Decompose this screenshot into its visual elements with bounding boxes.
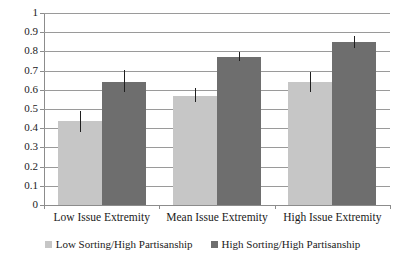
x-axis-category-label: Mean Issue Extremity [159,210,274,224]
plot-area [44,13,390,205]
error-bar [80,111,81,132]
y-axis-tick-mark [40,205,44,206]
error-bar [354,36,355,48]
y-axis-tick-label: 0.7 [4,65,38,76]
bar [102,82,146,205]
y-axis-tick-mark [40,90,44,91]
y-axis-tick-label: 0.4 [4,122,38,133]
x-axis-tick-mark [275,205,276,209]
y-axis-tick-labels: 10.90.80.70.60.50.40.30.20.10 [0,0,38,264]
bar [288,82,332,205]
legend-label: High Sorting/High Partisanship [222,238,361,250]
y-axis-tick-mark [40,186,44,187]
y-axis-tick-label: 0.8 [4,45,38,56]
legend-swatch-icon [211,241,218,248]
y-axis-tick-label: 0.3 [4,141,38,152]
legend-item: High Sorting/High Partisanship [211,238,361,250]
x-axis-tick-mark [44,205,45,209]
bar [217,57,261,205]
y-axis-tick-mark [40,13,44,14]
chart-legend: Low Sorting/High PartisanshipHigh Sortin… [0,238,405,250]
bar [332,42,376,205]
gridline [44,205,390,206]
x-axis-category-label: Low Issue Extremity [44,210,159,224]
bar-chart: 10.90.80.70.60.50.40.30.20.10 Low Issue … [0,0,405,264]
x-axis-category-label: High Issue Extremity [275,210,390,224]
y-axis-tick-mark [40,32,44,33]
y-axis-tick-mark [40,51,44,52]
error-bar [310,72,311,92]
legend-item: Low Sorting/High Partisanship [45,238,193,250]
gridline [44,13,390,14]
y-axis-tick-label: 0 [4,199,38,210]
y-axis-tick-mark [40,71,44,72]
y-axis-tick-mark [40,109,44,110]
y-axis-tick-label: 0.2 [4,161,38,172]
error-bar [124,70,125,92]
y-axis-tick-label: 0.9 [4,26,38,37]
gridline [44,32,390,33]
y-axis-tick-label: 0.1 [4,180,38,191]
legend-swatch-icon [45,241,52,248]
y-axis-tick-label: 0.5 [4,103,38,114]
bar [58,121,102,205]
y-axis-tick-mark [40,147,44,148]
bar [173,96,217,205]
y-axis-tick-mark [40,167,44,168]
y-axis-tick-label: 0.6 [4,84,38,95]
y-axis-tick-mark [40,128,44,129]
x-axis-tick-mark [159,205,160,209]
x-axis-tick-mark [390,205,391,209]
error-bar [239,52,240,61]
y-axis-tick-label: 1 [4,7,38,18]
legend-label: Low Sorting/High Partisanship [56,238,193,250]
error-bar [195,88,196,102]
